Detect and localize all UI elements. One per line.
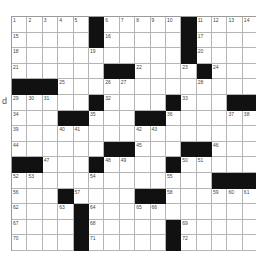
grid-cell[interactable] [43,173,58,189]
grid-cell[interactable] [104,173,119,189]
grid-cell[interactable] [104,220,119,236]
grid-cell[interactable] [151,64,166,80]
grid-cell[interactable] [120,220,135,236]
grid-cell[interactable]: 63 [58,204,73,220]
grid-cell[interactable] [120,95,135,111]
grid-cell[interactable]: 17 [197,33,212,49]
grid-cell[interactable] [27,64,42,80]
grid-cell[interactable] [212,33,227,49]
grid-cell[interactable] [166,33,181,49]
grid-cell[interactable] [227,48,242,64]
grid-cell[interactable]: 64 [89,204,104,220]
grid-cell[interactable] [197,235,212,251]
grid-cell[interactable]: 65 [135,204,150,220]
grid-cell[interactable] [43,189,58,205]
grid-cell[interactable]: 52 [12,173,27,189]
grid-cell[interactable] [27,33,42,49]
grid-cell[interactable]: 34 [12,111,27,127]
grid-cell[interactable] [135,235,150,251]
grid-cell[interactable] [212,204,227,220]
grid-cell[interactable]: 14 [243,17,256,33]
grid-cell[interactable] [212,220,227,236]
grid-cell[interactable] [181,189,196,205]
grid-cell[interactable] [212,111,227,127]
grid-cell[interactable]: 56 [12,189,27,205]
grid-cell[interactable] [181,126,196,142]
grid-cell[interactable]: 71 [89,235,104,251]
grid-cell[interactable]: 13 [227,17,242,33]
grid-cell[interactable] [104,48,119,64]
grid-cell[interactable] [197,111,212,127]
grid-cell[interactable] [197,204,212,220]
grid-cell[interactable] [89,64,104,80]
grid-cell[interactable]: 59 [212,189,227,205]
grid-cell[interactable]: 16 [104,33,119,49]
grid-cell[interactable] [243,126,256,142]
grid-cell[interactable] [166,142,181,158]
grid-cell[interactable]: 7 [120,17,135,33]
grid-cell[interactable] [212,235,227,251]
grid-cell[interactable]: 6 [104,17,119,33]
grid-cell[interactable] [27,235,42,251]
grid-cell[interactable] [166,126,181,142]
grid-cell[interactable]: 35 [89,111,104,127]
grid-cell[interactable] [135,220,150,236]
grid-cell[interactable] [197,126,212,142]
grid-cell[interactable]: 21 [12,64,27,80]
grid-cell[interactable] [181,173,196,189]
grid-cell[interactable] [227,79,242,95]
grid-cell[interactable] [120,111,135,127]
grid-cell[interactable] [104,189,119,205]
grid-cell[interactable] [120,204,135,220]
grid-cell[interactable]: 66 [151,204,166,220]
grid-cell[interactable] [212,157,227,173]
grid-cell[interactable] [227,235,242,251]
grid-cell[interactable] [212,79,227,95]
grid-cell[interactable]: 55 [166,173,181,189]
grid-cell[interactable] [27,126,42,142]
grid-cell[interactable]: 30 [27,95,42,111]
grid-cell[interactable] [104,126,119,142]
grid-cell[interactable] [89,142,104,158]
grid-cell[interactable] [151,48,166,64]
grid-cell[interactable] [58,48,73,64]
grid-cell[interactable]: 19 [89,48,104,64]
grid-cell[interactable]: 38 [243,111,256,127]
grid-cell[interactable] [166,204,181,220]
grid-cell[interactable] [135,33,150,49]
grid-cell[interactable] [43,142,58,158]
grid-cell[interactable] [120,173,135,189]
grid-cell[interactable] [243,235,256,251]
grid-cell[interactable] [243,79,256,95]
grid-cell[interactable] [197,173,212,189]
grid-cell[interactable] [227,220,242,236]
grid-cell[interactable]: 15 [12,33,27,49]
grid-cell[interactable]: 58 [166,189,181,205]
grid-cell[interactable] [151,33,166,49]
grid-cell[interactable] [120,189,135,205]
grid-cell[interactable]: 10 [166,17,181,33]
grid-cell[interactable]: 28 [197,79,212,95]
grid-cell[interactable]: 49 [120,157,135,173]
grid-cell[interactable] [27,204,42,220]
grid-cell[interactable]: 23 [181,64,196,80]
grid-cell[interactable] [227,64,242,80]
grid-cell[interactable]: 1 [12,17,27,33]
grid-cell[interactable] [151,95,166,111]
grid-cell[interactable] [58,95,73,111]
grid-cell[interactable] [135,48,150,64]
grid-cell[interactable] [58,235,73,251]
grid-cell[interactable] [181,111,196,127]
grid-cell[interactable] [243,142,256,158]
grid-cell[interactable] [43,64,58,80]
grid-cell[interactable]: 67 [12,220,27,236]
grid-cell[interactable]: 18 [12,48,27,64]
grid-cell[interactable] [120,126,135,142]
grid-cell[interactable]: 8 [135,17,150,33]
grid-cell[interactable]: 44 [12,142,27,158]
grid-cell[interactable]: 31 [43,95,58,111]
grid-cell[interactable]: 47 [43,157,58,173]
grid-cell[interactable]: 27 [120,79,135,95]
grid-cell[interactable] [197,95,212,111]
grid-cell[interactable] [27,189,42,205]
